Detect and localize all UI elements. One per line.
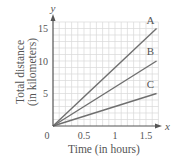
y-axis-title: Total distance(in kilometers) xyxy=(14,38,39,106)
distance-time-chart: ABC 0.511.551015 x y 0 Time (in hours) T… xyxy=(0,0,175,165)
y-tick-label: 5 xyxy=(43,88,48,99)
y-axis-arrow-icon xyxy=(51,14,56,21)
x-tick-label: 1.5 xyxy=(140,130,153,141)
series-label-b: B xyxy=(147,45,154,57)
y-tick-label: 15 xyxy=(38,23,48,34)
x-axis-letter: x xyxy=(164,120,170,132)
y-axis-title-line: (in kilometers) xyxy=(26,38,39,106)
x-tick-label: 0.5 xyxy=(78,130,91,141)
axes xyxy=(51,14,163,129)
series-lines: ABC xyxy=(53,14,157,127)
y-axis-letter: y xyxy=(50,2,56,14)
series-line-a xyxy=(53,29,157,127)
series-line-c xyxy=(53,94,157,127)
x-tick-label: 1 xyxy=(113,130,118,141)
series-label-a: A xyxy=(147,14,155,26)
series-label-c: C xyxy=(147,78,154,90)
x-axis-title: Time (in hours) xyxy=(68,143,140,156)
origin-label: 0 xyxy=(45,130,50,141)
y-tick-label: 10 xyxy=(38,56,48,67)
y-axis-title-line: Total distance xyxy=(14,40,26,104)
